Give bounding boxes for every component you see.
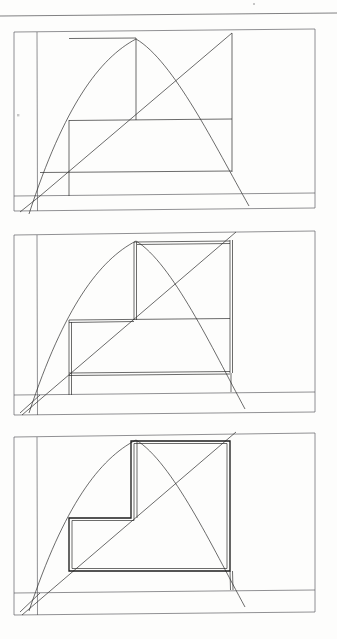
panel-1-parabola (29, 39, 249, 214)
panel-1-origin-spur (20, 196, 40, 212)
panel-2-baseline (14, 392, 315, 395)
panel-2-frame (14, 231, 315, 415)
panel-1-step-3-top (69, 38, 136, 39)
panel-3-baseline (14, 590, 315, 593)
panel-1-left-axis (37, 32, 38, 211)
panel-2-parabola (29, 241, 245, 413)
panel-3-riser-foot-trace (233, 571, 234, 590)
panel-2-step-1-top (69, 372, 230, 374)
figure-canvas (0, 0, 337, 639)
panel-3-frame (14, 433, 315, 615)
panel-2 (14, 231, 315, 415)
panel-2-diagonal (22, 232, 236, 415)
panel-1-baseline (14, 193, 315, 196)
scanned-page (0, 0, 337, 639)
top-horizontal-rule (0, 13, 337, 16)
tick-dot-left-mark (17, 114, 19, 116)
panel-2-step-1-top-trace (69, 374, 230, 376)
panel-1-step-2-top (69, 119, 232, 121)
panel-1-frame (14, 29, 315, 211)
panel-2-step-2-top-trace (69, 322, 134, 323)
panel-2-step-2-top (69, 319, 230, 321)
panel-3-diagonal (22, 432, 236, 615)
panel-3-riser-foot (230, 571, 231, 590)
speck-top-right-mark (253, 3, 255, 5)
panel-3 (14, 432, 315, 615)
panel-2-step-3-top (134, 241, 230, 242)
panel-2-step-3-top-trace (137, 244, 230, 245)
panel-1 (14, 29, 315, 214)
